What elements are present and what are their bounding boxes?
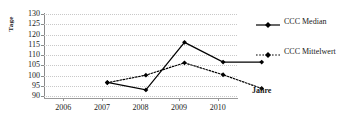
x-axis-tick-mark (218, 98, 219, 101)
y-axis-tick-mark (41, 65, 44, 66)
x-axis-tick-mark (102, 98, 103, 101)
legend-swatch-icon (256, 46, 280, 56)
data-point-marker (105, 80, 110, 85)
legend-item[interactable]: CCC Median (256, 16, 345, 26)
line-chart: Tage 9095100105110115120125130 200620072… (0, 0, 345, 130)
x-axis-tick-label: 2010 (198, 103, 238, 112)
x-axis-tick-mark (179, 98, 180, 101)
chart-legend: CCC MedianCCC Mittelwert (256, 16, 345, 76)
y-axis-tick-mark (41, 45, 44, 46)
x-axis-tick-mark (63, 98, 64, 101)
plot-area: 9095100105110115120125130 (44, 14, 237, 96)
y-axis-tick-mark (41, 55, 44, 56)
y-axis-tick-label: 110 (21, 51, 40, 59)
x-axis-tick-label: 2007 (82, 103, 122, 112)
data-point-marker (221, 60, 226, 65)
y-axis-tick-mark (41, 35, 44, 36)
y-axis-tick-mark (41, 76, 44, 77)
legend-label: CCC Mittelwert (284, 47, 336, 56)
series-line (107, 63, 261, 89)
y-axis-tick-label: 125 (21, 20, 40, 28)
y-axis-tick-mark (41, 14, 44, 15)
series-1 (105, 40, 264, 92)
gridline (44, 24, 237, 25)
x-axis-tick-label: 2009 (159, 103, 199, 112)
series-plot (88, 28, 281, 110)
y-axis-title: Tage (7, 4, 15, 44)
data-point-marker (221, 72, 226, 77)
legend-swatch-icon (256, 16, 280, 26)
x-axis-title: Jahre (252, 86, 271, 95)
data-point-marker (182, 60, 187, 65)
legend-label: CCC Median (284, 17, 326, 26)
y-axis-tick-label: 105 (21, 61, 40, 69)
y-axis-tick-label: 90 (21, 92, 40, 100)
y-axis-tick-label: 130 (21, 10, 40, 18)
y-axis-tick-mark (41, 24, 44, 25)
y-axis-tick-label: 115 (21, 41, 40, 49)
series-line (107, 42, 261, 90)
y-axis-tick-label: 95 (21, 82, 40, 90)
x-axis-tick-label: 2008 (121, 103, 161, 112)
y-axis-tick-label: 100 (21, 72, 40, 80)
y-axis-tick-label: 120 (21, 31, 40, 39)
x-axis-tick-label: 2006 (43, 103, 83, 112)
legend-item[interactable]: CCC Mittelwert (256, 46, 345, 56)
x-axis-tick-mark (141, 98, 142, 101)
data-point-marker (144, 73, 149, 78)
y-axis-tick-mark (41, 96, 44, 97)
gridline (44, 14, 237, 15)
y-axis-tick-mark (41, 86, 44, 87)
